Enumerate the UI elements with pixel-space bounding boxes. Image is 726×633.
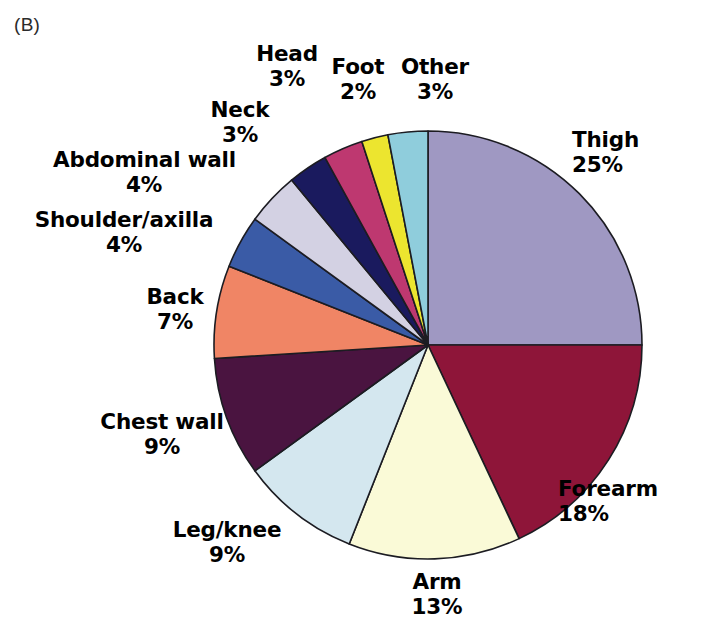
pie-label-forearm: Forearm 18% — [558, 477, 658, 527]
pie-label-head-name: Head — [252, 42, 322, 67]
pie-label-neck-name: Neck — [200, 98, 280, 123]
pie-label-foot: Foot 2% — [327, 55, 389, 105]
pie-label-head: Head 3% — [252, 42, 322, 92]
pie-label-arm-name: Arm — [406, 570, 468, 595]
pie-label-other: Other 3% — [398, 55, 472, 105]
pie-label-abdominal-wall-pct: 4% — [53, 173, 235, 198]
pie-label-arm-pct: 13% — [406, 595, 468, 620]
pie-label-arm: Arm 13% — [406, 570, 468, 620]
pie-label-abdominal-wall: Abdominal wall 4% — [53, 148, 235, 198]
pie-label-abdominal-wall-name: Abdominal wall — [53, 148, 235, 173]
pie-label-thigh-name: Thigh — [572, 128, 639, 153]
pie-label-thigh-pct: 25% — [572, 153, 639, 178]
pie-label-other-name: Other — [398, 55, 472, 80]
figure-panel: (B) Thigh 25% Forearm 18% Arm 13% Leg/kn… — [0, 0, 726, 633]
pie-label-chest-wall: Chest wall 9% — [100, 410, 224, 460]
pie-label-neck-pct: 3% — [200, 123, 280, 148]
pie-label-neck: Neck 3% — [200, 98, 280, 148]
pie-label-shoulder-axilla: Shoulder/axilla 4% — [24, 208, 224, 258]
pie-label-other-pct: 3% — [398, 80, 472, 105]
pie-label-leg-knee: Leg/knee 9% — [168, 518, 286, 568]
pie-label-head-pct: 3% — [252, 67, 322, 92]
pie-label-thigh: Thigh 25% — [572, 128, 639, 178]
pie-label-shoulder-axilla-name: Shoulder/axilla — [24, 208, 224, 233]
pie-label-shoulder-axilla-pct: 4% — [24, 233, 224, 258]
pie-label-chest-wall-name: Chest wall — [100, 410, 224, 435]
pie-label-forearm-pct: 18% — [558, 502, 658, 527]
pie-label-foot-name: Foot — [327, 55, 389, 80]
pie-label-chest-wall-pct: 9% — [100, 435, 224, 460]
pie-label-back-pct: 7% — [140, 310, 210, 335]
pie-label-leg-knee-pct: 9% — [168, 543, 286, 568]
pie-label-back-name: Back — [140, 285, 210, 310]
pie-label-foot-pct: 2% — [327, 80, 389, 105]
pie-label-forearm-name: Forearm — [558, 477, 658, 502]
pie-label-leg-knee-name: Leg/knee — [168, 518, 286, 543]
pie-label-back: Back 7% — [140, 285, 210, 335]
